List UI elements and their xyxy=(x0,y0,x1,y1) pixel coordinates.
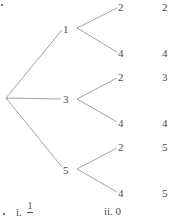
node-level2-c2: 4 xyxy=(118,188,124,199)
node-level2-b2: 4 xyxy=(118,118,124,129)
answer-i-prefix: i. xyxy=(16,207,22,218)
node-level2-b1: 2 xyxy=(118,72,124,83)
result-value: 3 xyxy=(162,72,168,83)
result-value: 5 xyxy=(162,188,168,199)
result-value: 5 xyxy=(162,142,168,153)
stray-mark xyxy=(1,4,3,6)
stray-mark xyxy=(3,213,5,215)
node-level2-a1: 2 xyxy=(118,2,124,13)
result-value: 4 xyxy=(162,118,168,129)
tree-diagram-lines xyxy=(0,0,170,219)
result-value: 2 xyxy=(162,2,168,13)
answer-ii: ii. 0 xyxy=(104,206,121,217)
node-level1-c: 5 xyxy=(63,165,69,176)
node-level1-b: 3 xyxy=(63,94,69,105)
node-level1-a: 1 xyxy=(63,24,69,35)
node-level2-a2: 4 xyxy=(118,48,124,59)
fraction-numerator: 1 xyxy=(28,201,33,210)
node-level2-c1: 2 xyxy=(118,142,124,153)
result-value: 4 xyxy=(162,48,168,59)
answer-i-fraction: 1 xyxy=(27,201,33,213)
fraction-bar xyxy=(27,212,33,213)
